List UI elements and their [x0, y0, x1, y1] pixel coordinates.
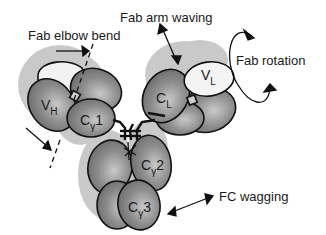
label-fab-arm-waving: Fab arm waving: [120, 10, 212, 25]
label-fab-elbow-bend: Fab elbow bend: [28, 28, 121, 43]
label-fab-rotation: Fab rotation: [236, 53, 305, 68]
antibody-figure: VH Cγ1 CL VL Cγ2 Cγ3 Fab elbow bend Fab …: [0, 0, 326, 235]
antibody-diagram: VH Cγ1 CL VL Cγ2 Cγ3 Fab elbow bend Fab …: [0, 0, 326, 235]
label-fc-wagging: FC wagging: [219, 189, 288, 204]
